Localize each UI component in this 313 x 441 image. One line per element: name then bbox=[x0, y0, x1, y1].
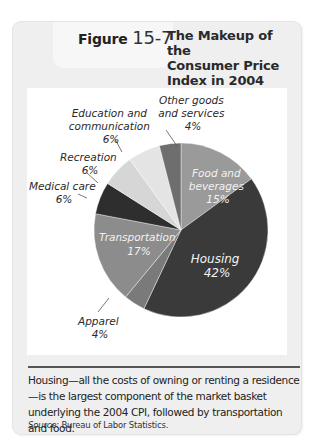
label-apparel: Apparel 4% bbox=[77, 315, 122, 340]
label-recreation: Recreation 6% bbox=[60, 151, 120, 176]
pie-chart: Education and communication 6% Other goo… bbox=[0, 0, 313, 441]
label-education: Education and communication 6% bbox=[69, 107, 154, 145]
label-medical: Medical care 6% bbox=[29, 180, 99, 205]
leader-apparel bbox=[98, 298, 109, 312]
leader-medical bbox=[78, 194, 87, 198]
label-other: Other goods and services 4% bbox=[158, 94, 228, 132]
